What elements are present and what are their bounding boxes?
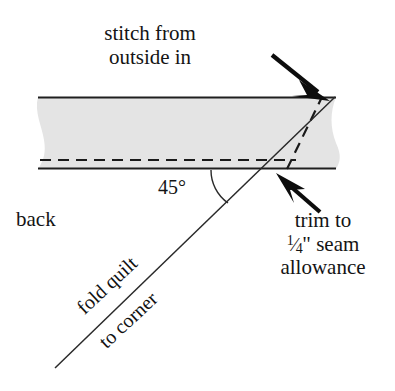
back-label: back [16,208,56,232]
stitch-instruction-line-1: stitch from [0,22,300,46]
angle-label: 45° [158,176,186,198]
fraction-denominator: 4 [296,240,303,255]
arrow-up-left-icon [276,173,320,212]
stitch-instruction-line-2: outside in [0,46,300,70]
trim-instruction-label: trim to 1⁄4" seam allowance [251,209,395,280]
trim-seam-word: seam [311,232,359,256]
quilt-corner-diagram: stitch from outside in back 45° trim to … [0,0,395,391]
stitch-instruction-label: stitch from outside in [0,22,300,69]
fabric-band-shape [37,97,340,169]
trim-instruction-line-3: allowance [251,256,395,280]
trim-instruction-line-1: trim to [251,209,395,233]
angle-arc-icon [211,170,228,203]
inch-mark: " [302,232,311,256]
trim-instruction-line-2: 1⁄4" seam [251,233,395,257]
quarter-inch-fraction: 1⁄4 [287,233,303,257]
